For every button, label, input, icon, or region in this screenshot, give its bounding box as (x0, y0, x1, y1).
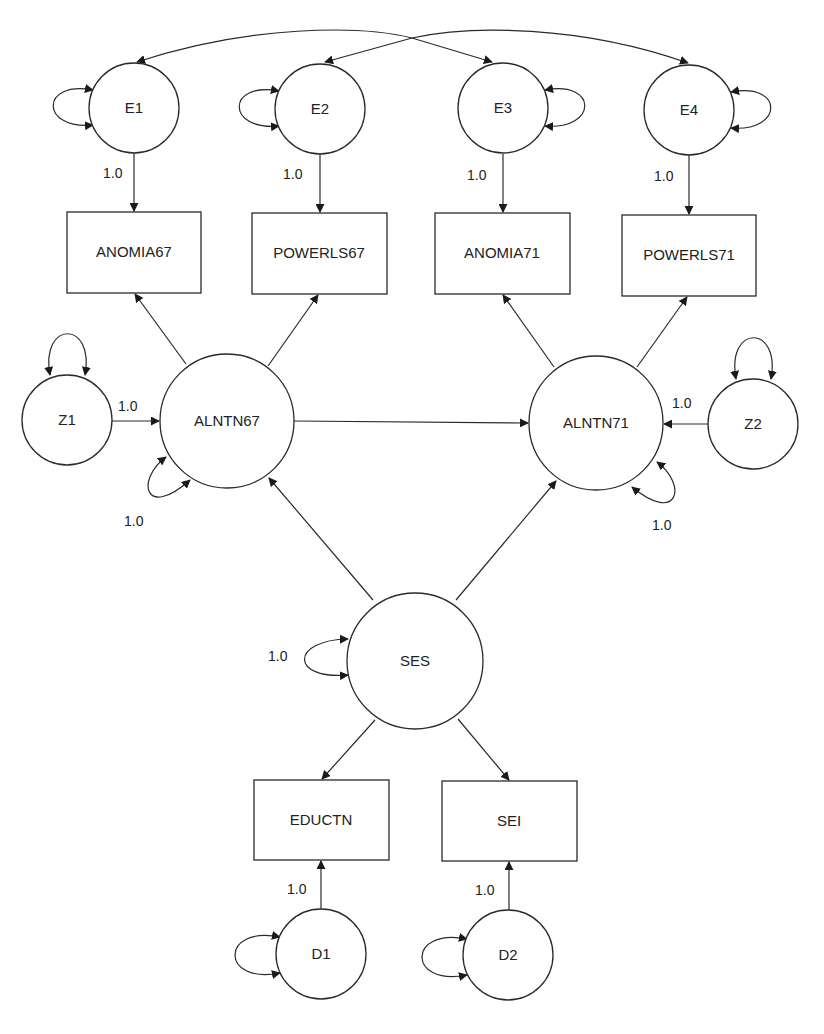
node-powerls71: POWERLS71 (622, 215, 756, 296)
node-eductn: EDUCTN (254, 780, 389, 860)
svg-text:Z2: Z2 (744, 415, 762, 432)
svg-text:D1: D1 (311, 945, 330, 962)
svg-text:POWERLS67: POWERLS67 (273, 244, 365, 261)
svg-text:ALNTN67: ALNTN67 (194, 412, 260, 429)
path-ses-eductn (322, 720, 375, 779)
coef-z2-alntn71: 1.0 (672, 395, 692, 411)
variance-loop-d2 (422, 937, 467, 976)
node-powerls67: POWERLS67 (252, 213, 387, 294)
node-alntn71: ALNTN71 (529, 356, 663, 490)
coef-alntn71-variance: 1.0 (652, 517, 672, 533)
svg-text:E1: E1 (125, 99, 143, 116)
path-alntn67-anomia67 (135, 294, 186, 364)
svg-text:POWERLS71: POWERLS71 (643, 246, 735, 263)
node-anomia67: ANOMIA67 (67, 212, 201, 293)
svg-text:Z1: Z1 (58, 411, 76, 428)
variance-loop-z2 (735, 338, 772, 379)
coef-z1-alntn67: 1.0 (118, 398, 138, 414)
svg-text:SEI: SEI (497, 812, 521, 829)
node-anomia71: ANOMIA71 (435, 213, 570, 294)
svg-text:ALNTN71: ALNTN71 (563, 414, 629, 431)
svg-text:ANOMIA67: ANOMIA67 (96, 243, 172, 260)
svg-text:ANOMIA71: ANOMIA71 (464, 244, 540, 261)
coef-e4-powerls71: 1.0 (654, 168, 674, 184)
svg-text:E2: E2 (311, 100, 329, 117)
svg-text:SES: SES (400, 652, 430, 669)
variance-loop-e1 (53, 89, 93, 126)
path-ses-sei (458, 719, 509, 780)
node-e4: E4 (644, 65, 734, 155)
node-ses: SES (347, 593, 483, 729)
node-alntn67: ALNTN67 (160, 354, 294, 488)
sem-diagram: E1 E2 E3 E4 ANOMIA67 POWERLS67 ANOMIA71 … (0, 0, 824, 1034)
path-ses-alntn67 (269, 478, 373, 600)
coef-e1-anomia67: 1.0 (103, 165, 123, 181)
coef-d2-sei: 1.0 (475, 882, 495, 898)
coef-ses-variance: 1.0 (268, 648, 288, 664)
path-alntn67-alntn71 (294, 421, 528, 423)
variance-loop-d1 (235, 935, 280, 974)
path-alntn67-powerls67 (268, 295, 318, 366)
svg-text:E3: E3 (494, 99, 512, 116)
path-alntn71-powerls71 (637, 297, 687, 367)
coef-e3-anomia71: 1.0 (467, 167, 487, 183)
node-d1: D1 (276, 909, 366, 999)
node-e3: E3 (458, 63, 548, 153)
covariance-e2-e4 (325, 30, 688, 63)
variance-loop-ses (305, 639, 349, 675)
variance-loop-z1 (49, 334, 86, 375)
path-alntn71-anomia71 (503, 295, 554, 367)
variance-loop-e3 (545, 89, 585, 127)
node-e2: E2 (275, 64, 365, 154)
coef-alntn67-variance: 1.0 (124, 513, 144, 529)
svg-text:EDUCTN: EDUCTN (290, 811, 353, 828)
node-e1: E1 (89, 63, 179, 153)
node-z2: Z2 (708, 379, 798, 469)
coef-e2-powerls67: 1.0 (283, 166, 303, 182)
node-d2: D2 (463, 910, 553, 1000)
svg-text:D2: D2 (498, 946, 517, 963)
path-ses-alntn71 (456, 481, 556, 600)
variance-loop-e2 (239, 90, 279, 127)
node-sei: SEI (442, 781, 577, 861)
variance-loop-e4 (731, 91, 771, 129)
node-z1: Z1 (22, 375, 112, 465)
svg-text:E4: E4 (680, 101, 698, 118)
coef-d1-eductn: 1.0 (287, 881, 307, 897)
covariance-e1-e3 (137, 30, 492, 62)
